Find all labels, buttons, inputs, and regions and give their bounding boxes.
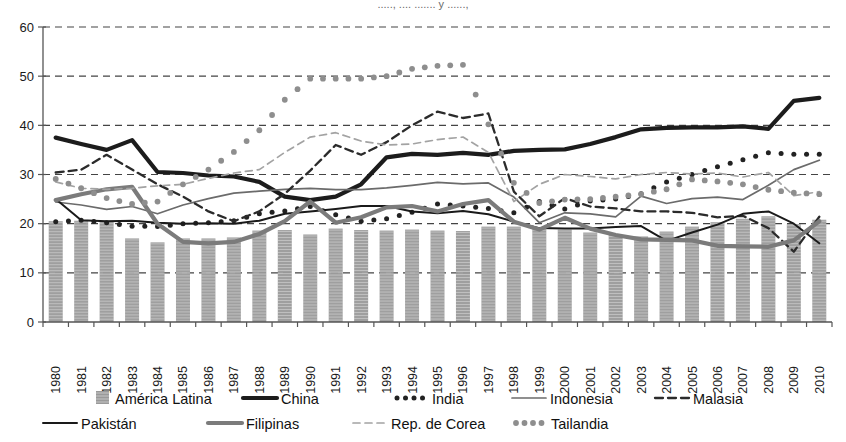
x-tick-label: 2010 xyxy=(813,366,827,394)
legend-item-label: América Latina xyxy=(115,391,213,407)
bar-item xyxy=(49,221,63,322)
legend-swatch xyxy=(530,420,536,426)
x-tick-label: 2003 xyxy=(635,366,649,394)
y-tick-label: 10 xyxy=(20,265,34,280)
legend-swatch xyxy=(395,396,400,401)
y-tick-label: 0 xyxy=(27,315,34,330)
x-tick-label: 1982 xyxy=(100,366,114,394)
x-tick-label: 1997 xyxy=(482,366,496,394)
bar-item xyxy=(431,231,445,322)
legend-swatch xyxy=(539,420,545,426)
y-tick-label: 30 xyxy=(20,167,34,182)
bar-item xyxy=(354,230,368,322)
bar-item xyxy=(736,219,750,322)
bar-item xyxy=(481,227,495,322)
bar-item xyxy=(660,232,674,322)
x-tick-label: 1987 xyxy=(227,366,241,394)
bar-item xyxy=(227,237,241,322)
bar-item xyxy=(278,230,292,322)
x-tick-label: 2009 xyxy=(787,366,801,394)
bar-item xyxy=(252,231,266,322)
legend-item-label: Rep. de Corea xyxy=(391,416,486,432)
bar-item xyxy=(609,235,623,322)
chart-title-truncated: ....., .... ....... y ......, xyxy=(0,0,846,12)
y-tick-label: 60 xyxy=(20,20,34,35)
bar-item xyxy=(176,238,190,322)
bar-item xyxy=(380,231,394,322)
bar-item xyxy=(74,221,88,322)
x-tick-label: 1999 xyxy=(533,366,547,394)
legend-item[interactable]: Pakistán xyxy=(43,416,137,432)
x-tick-label: 1981 xyxy=(75,366,89,394)
legend-item-label: China xyxy=(281,391,320,407)
legend-item-label: Pakistán xyxy=(81,416,137,432)
legend-item-label: Malasia xyxy=(693,391,744,407)
bar-item xyxy=(812,220,826,322)
bar-item xyxy=(303,234,317,322)
chart-figure: ....., .... ....... y ......, 0102030405… xyxy=(0,0,846,442)
legend-swatch xyxy=(420,396,425,401)
line-series xyxy=(53,150,822,229)
y-tick-label: 50 xyxy=(20,69,34,84)
chart-legend: América LatinaChinaIndiaIndonesiaMalasia… xyxy=(43,391,744,432)
y-tick-label: 20 xyxy=(20,216,34,231)
bar-item xyxy=(151,242,165,322)
legend-swatch xyxy=(513,420,519,426)
x-tick-label: 1980 xyxy=(49,366,63,394)
legend-item-label: Indonesia xyxy=(550,391,614,407)
bar-item xyxy=(100,222,114,322)
x-tick-label: 1991 xyxy=(329,366,343,394)
legend-swatch xyxy=(412,396,417,401)
x-tick-label: 1992 xyxy=(355,366,369,394)
x-tick-label: 1994 xyxy=(406,366,420,394)
bar-item xyxy=(634,236,648,322)
bar-item xyxy=(583,233,597,322)
x-tick-label: 1988 xyxy=(253,366,267,394)
x-tick-label: 2004 xyxy=(660,366,674,394)
x-tick-label: 1993 xyxy=(380,366,394,394)
legend-swatch xyxy=(403,396,408,401)
bar-item xyxy=(201,238,215,322)
legend-item[interactable]: Rep. de Corea xyxy=(353,416,486,432)
y-tick-label: 40 xyxy=(20,118,34,133)
bar-item xyxy=(125,238,139,322)
legend-item[interactable]: Filipinas xyxy=(208,416,299,432)
x-axis-ticks: 1980198119821983198419851986198719881989… xyxy=(43,322,832,394)
bar-item xyxy=(507,227,521,322)
bar-item xyxy=(329,229,343,322)
bar-item xyxy=(710,222,724,322)
legend-item-label: Tailandia xyxy=(551,416,609,432)
bar-item xyxy=(558,230,572,322)
bar-item xyxy=(532,229,546,322)
bar-item xyxy=(405,230,419,322)
legend-item-label: Filipinas xyxy=(246,416,299,432)
y-axis-ticks: 0102030405060 xyxy=(20,20,46,330)
x-tick-label: 2008 xyxy=(762,366,776,394)
legend-swatch xyxy=(522,420,528,426)
legend-item[interactable]: Tailandia xyxy=(513,416,609,432)
legend-item-label: India xyxy=(432,391,464,407)
x-tick-label: 1998 xyxy=(507,366,521,394)
bar-item xyxy=(456,231,470,322)
legend-item[interactable]: Indonesia xyxy=(512,391,614,407)
bar-series-america-latina xyxy=(49,216,827,322)
chart-svg: 0102030405060 19801981198219831984198519… xyxy=(0,0,846,442)
